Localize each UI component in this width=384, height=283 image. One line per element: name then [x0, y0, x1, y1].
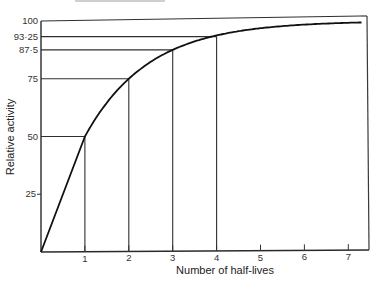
x-tick-label: 7 [346, 251, 351, 262]
x-tick-label: 4 [214, 252, 219, 263]
y-tick-label: 75 [27, 73, 38, 84]
activity-curve [41, 23, 362, 253]
reference-line-100 [41, 16, 361, 21]
y-tick-label: 50 [27, 131, 38, 142]
guide-lines [41, 16, 361, 252]
x-tick-label: 2 [126, 252, 131, 263]
y-tick-label: 93·25 [14, 31, 38, 42]
x-tick-label: 1 [82, 253, 87, 264]
x-tick-label: 5 [258, 252, 263, 263]
y-tick-label: 87·5 [19, 44, 38, 55]
activity-curve-path [41, 23, 362, 253]
plot-frame [41, 16, 369, 252]
y-tick-label: 100 [22, 15, 38, 26]
x-axis [41, 250, 369, 252]
chart: 100507587·593·25251234567 Number of half… [0, 0, 384, 283]
axis-ticks: 100507587·593·25251234567 [14, 15, 351, 264]
x-tick-label: 3 [170, 252, 175, 263]
top-cropped-bar [75, 0, 165, 2]
x-tick-label: 6 [302, 251, 307, 262]
y-axis-label: Relative activity [4, 98, 16, 175]
x-axis-label: Number of half-lives [176, 264, 274, 276]
y-tick-label: 25 [25, 188, 36, 199]
frame-right [367, 16, 369, 250]
